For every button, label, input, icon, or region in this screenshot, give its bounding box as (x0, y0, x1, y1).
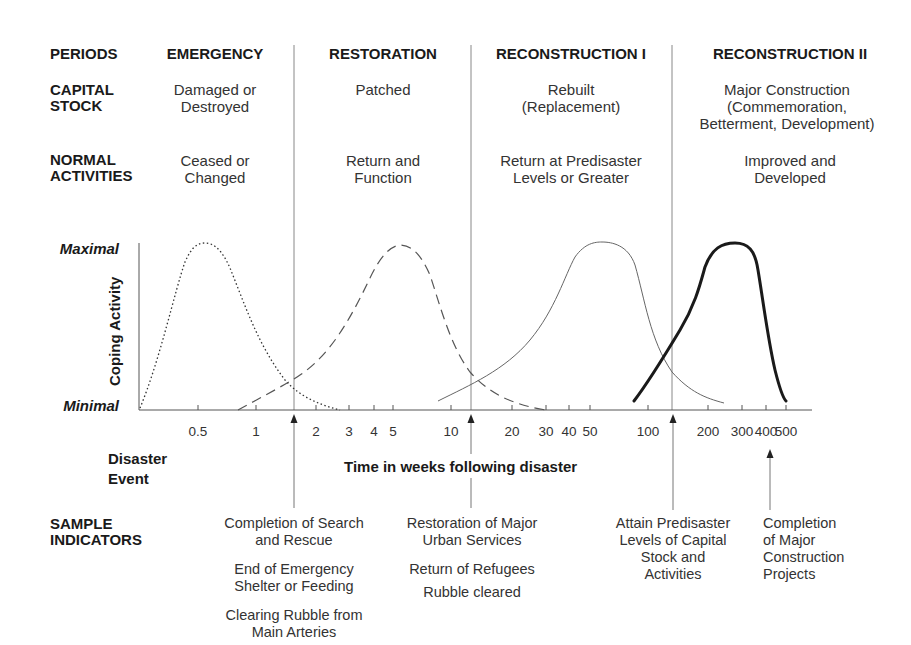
x-tick-label: 10 (443, 424, 458, 439)
indicator-predisaster-levels: Attain Predisaster Levels of Capital Sto… (600, 515, 746, 583)
capital-stock-emergency: Damaged or Destroyed (150, 81, 280, 115)
x-tick-label: 300 (731, 424, 754, 439)
x-tick-label: 3 (345, 424, 353, 439)
x-tick-label: 5 (389, 424, 397, 439)
x-axis-ticks (198, 405, 786, 410)
indicator-major-construction: Completion of Major Construction Project… (763, 515, 883, 583)
indicator-arrow-4 (767, 449, 774, 510)
period-reconstruction-2: RECONSTRUCTION II (680, 46, 900, 62)
x-tick-label: 100 (637, 424, 660, 439)
x-tick-label: 2 (312, 424, 320, 439)
normal-activities-reconstruction-2: Improved and Developed (680, 152, 900, 186)
y-axis-title: Coping Activity (106, 277, 123, 386)
indicator-rubble-cleared: Rubble cleared (386, 584, 558, 601)
indicator-clearing-rubble: Clearing Rubble from Main Arteries (204, 607, 384, 641)
indicator-group-1: Completion of Search and Rescue End of E… (204, 515, 384, 641)
row-label-capital-stock: CAPITAL STOCK (50, 82, 114, 114)
curve-restoration (238, 245, 546, 410)
indicator-urban-services: Restoration of Major Urban Services (386, 515, 558, 549)
indicator-arrow-1 (291, 414, 298, 508)
normal-activities-emergency: Ceased or Changed (150, 152, 280, 186)
curve-emergency (140, 243, 340, 410)
x-tick-label: 200 (697, 424, 720, 439)
capital-stock-restoration: Patched (300, 81, 466, 98)
x-tick-label: 0.5 (189, 424, 208, 439)
disaster-event-label: Disaster Event (108, 449, 167, 489)
curve-reconstruction-1 (438, 242, 724, 403)
y-tick-maximal: Maximal (60, 240, 119, 257)
indicator-group-2: Restoration of Major Urban Services Retu… (386, 515, 558, 601)
x-tick-label: 30 (538, 424, 553, 439)
row-label-periods: PERIODS (50, 46, 118, 62)
capital-stock-reconstruction-2: Major Construction (Commemoration, Bette… (674, 81, 900, 132)
period-reconstruction-1: RECONSTRUCTION I (476, 46, 666, 62)
period-emergency: EMERGENCY (150, 46, 280, 62)
normal-activities-reconstruction-1: Return at Predisaster Levels or Greater (476, 152, 666, 186)
indicator-arrow-3 (670, 414, 677, 510)
x-tick-label: 50 (582, 424, 597, 439)
indicator-refugees: Return of Refugees (386, 561, 558, 578)
x-tick-label: 500 (775, 424, 798, 439)
capital-stock-reconstruction-1: Rebuilt (Replacement) (476, 81, 666, 115)
x-tick-label: 1 (252, 424, 260, 439)
curve-reconstruction-2 (634, 243, 786, 401)
x-tick-label: 40 (561, 424, 576, 439)
y-tick-minimal: Minimal (63, 397, 119, 414)
x-tick-label: 20 (504, 424, 519, 439)
row-label-normal-activities: NORMAL ACTIVITIES (50, 152, 133, 184)
indicator-search-rescue: Completion of Search and Rescue (204, 515, 384, 549)
indicator-group-3: Attain Predisaster Levels of Capital Sto… (600, 515, 746, 583)
row-label-sample-indicators: SAMPLE INDICATORS (50, 516, 142, 548)
period-restoration: RESTORATION (300, 46, 466, 62)
indicator-emergency-shelter: End of Emergency Shelter or Feeding (204, 561, 384, 595)
x-axis-title: Time in weeks following disaster (342, 458, 579, 475)
indicator-group-4: Completion of Major Construction Project… (763, 515, 883, 583)
x-tick-label: 4 (370, 424, 378, 439)
normal-activities-restoration: Return and Function (300, 152, 466, 186)
